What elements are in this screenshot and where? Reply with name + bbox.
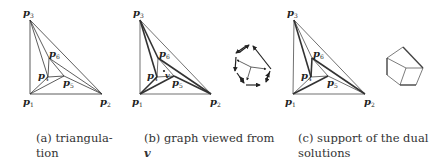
directed-graph-b: [235, 45, 271, 85]
arrow: [240, 45, 249, 52]
label-p1: p1: [285, 96, 296, 108]
caption-c-line1: (c) support of the dual: [298, 131, 428, 146]
label-p5: p5: [327, 77, 338, 89]
edge: [400, 68, 406, 85]
label-p2: p2: [210, 96, 221, 108]
caption-a-line2: tion: [36, 146, 113, 161]
edge: [387, 47, 403, 58]
caption-c: (c) support of the dual solutions: [298, 131, 428, 161]
edge: [403, 47, 423, 68]
caption-b-line2: v: [144, 146, 274, 161]
pentagon-c: [387, 47, 423, 85]
label-p3: p3: [287, 7, 298, 19]
arrow: [247, 67, 251, 80]
arrow: [235, 57, 236, 71]
caption-a-line1: (a) triangula-: [36, 131, 113, 146]
arrow: [251, 67, 266, 69]
label-p6: p6: [49, 48, 60, 60]
edge: [387, 58, 406, 68]
label-p3: p3: [133, 7, 144, 19]
label-p3: p3: [23, 7, 34, 19]
label-p5: p5: [63, 77, 74, 89]
label-p4: p4: [301, 70, 312, 82]
edge: [30, 20, 49, 58]
edge: [49, 58, 102, 94]
arrow: [237, 60, 251, 67]
caption-b: (b) graph viewed from v: [144, 131, 274, 161]
caption-b-line1: (b) graph viewed from: [144, 131, 274, 146]
label-v: v: [165, 70, 170, 80]
edge: [312, 58, 365, 94]
label-p4: p4: [38, 70, 49, 82]
edge: [387, 75, 400, 85]
edge: [293, 20, 294, 94]
arrow: [253, 46, 271, 69]
edge: [30, 20, 48, 77]
label-p4: p4: [147, 70, 158, 82]
label-p2: p2: [364, 96, 375, 108]
edge: [416, 68, 423, 85]
label-p2: p2: [100, 96, 111, 108]
caption-a: (a) triangula- tion: [36, 131, 113, 161]
label-p1: p1: [23, 96, 34, 108]
caption-c-line2: solutions: [298, 146, 428, 161]
label-p1: p1: [132, 96, 143, 108]
